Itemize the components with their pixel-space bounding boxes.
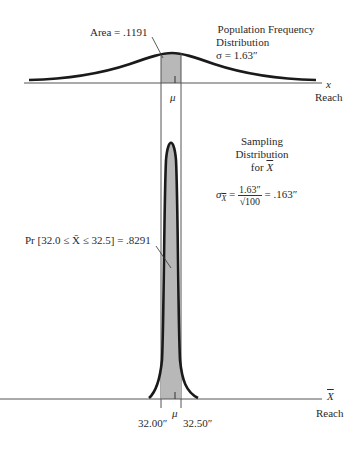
fraction-numerator: 1.63″: [238, 184, 262, 196]
equals-sign: =: [229, 188, 235, 200]
diagram-canvas: [0, 0, 362, 454]
area-label: Area = .1191: [90, 26, 147, 38]
population-sigma: σ = 1.63″: [216, 49, 257, 61]
fraction-denominator: √100: [238, 196, 262, 207]
for-text: for: [251, 161, 267, 173]
left-tick-label: 32.00″: [138, 417, 167, 429]
population-title-line1: Population Frequency: [214, 23, 318, 35]
sigma-xbar-formula: σX = 1.63″ √100 = .163″: [216, 184, 297, 207]
probability-label: Pr [32.0 ≤ X̄ ≤ 32.5] = .8291: [25, 234, 151, 246]
right-tick-label: 32.50″: [183, 417, 212, 429]
top-axis-label: Reach: [315, 91, 342, 103]
population-title-line2: Distribution: [216, 36, 269, 48]
sigma-subscript: X: [221, 194, 226, 203]
bottom-mu-label: μ: [172, 407, 178, 419]
sigma-result: = .163″: [264, 188, 297, 200]
bottom-axis-var: X: [327, 390, 334, 402]
sampling-title-line3: for X: [232, 161, 292, 173]
top-shaded-area: [161, 53, 181, 83]
xbar-var: X: [266, 161, 273, 173]
sampling-title-line2: Distribution: [232, 148, 292, 160]
top-axis-var: x: [326, 78, 331, 90]
sigma-fraction: 1.63″ √100: [238, 184, 262, 207]
bottom-axis-label: Reach: [316, 407, 343, 419]
top-mu-label: μ: [170, 91, 176, 103]
sampling-title-line1: Sampling: [232, 135, 292, 147]
